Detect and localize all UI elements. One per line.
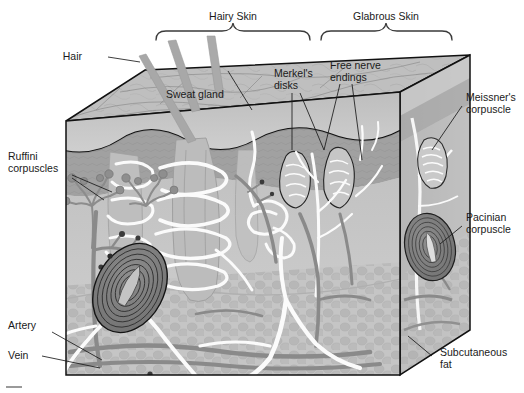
label-pacinian-corpuscle-line2: corpuscle bbox=[466, 223, 511, 235]
corner-tick-mark bbox=[6, 386, 22, 388]
brace-label-glabrous-skin: Glabrous Skin bbox=[353, 10, 419, 22]
label-subcutaneous-fat-line2: fat bbox=[440, 358, 452, 370]
label-hair: Hair bbox=[63, 50, 83, 62]
label-subcutaneous-fat-line1: Subcutaneous bbox=[440, 346, 507, 358]
skin-front-face bbox=[52, 90, 405, 382]
skin-diagram-canvas: Hairy Skin Glabrous Skin Hair Sweat glan… bbox=[0, 0, 524, 393]
brace-hairy-skin: Hairy Skin bbox=[156, 10, 310, 40]
label-free-nerve-endings-line2: endings bbox=[330, 71, 367, 83]
label-ruffini-corpuscles-line1: Ruffini bbox=[8, 150, 38, 162]
label-merkel-disks-line2: disks bbox=[274, 79, 298, 91]
label-merkel-disks-line1: Merkel's bbox=[274, 67, 313, 79]
label-vein: Vein bbox=[8, 349, 29, 361]
label-sweat-gland: Sweat gland bbox=[166, 88, 224, 100]
label-meissner-corpuscle-line2: corpuscle bbox=[466, 103, 511, 115]
label-artery: Artery bbox=[8, 319, 37, 331]
skin-side-face bbox=[398, 55, 470, 375]
label-ruffini-corpuscles-line2: corpuscles bbox=[8, 162, 58, 174]
brace-label-hairy-skin: Hairy Skin bbox=[209, 10, 257, 22]
label-free-nerve-endings-line1: Free nerve bbox=[330, 59, 381, 71]
skin-anatomy-figure: Hairy Skin Glabrous Skin Hair Sweat glan… bbox=[0, 0, 524, 393]
brace-glabrous-skin: Glabrous Skin bbox=[321, 10, 452, 40]
label-meissner-corpuscle-line1: Meissner's bbox=[466, 91, 516, 103]
label-pacinian-corpuscle-line1: Pacinian bbox=[466, 211, 506, 223]
meissner-corpuscle bbox=[418, 138, 448, 189]
